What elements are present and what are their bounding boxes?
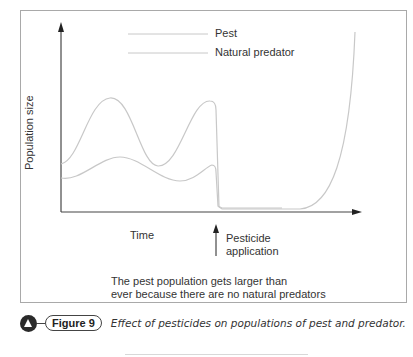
legend-label-pest: Pest — [215, 27, 237, 39]
y-axis-label: Population size — [23, 95, 35, 170]
annotation-line-1: Pesticide — [226, 232, 306, 245]
chart-plot — [0, 0, 413, 357]
note-line-2: ever because there are no natural predat… — [111, 288, 351, 301]
bottom-divider — [125, 354, 308, 355]
explanation-note: The pest population gets larger than eve… — [111, 275, 351, 301]
annotation-line-2: application — [226, 245, 306, 258]
figure-caption: Figure 9 Effect of pesticides on populat… — [20, 312, 406, 334]
pest-curve — [61, 32, 355, 209]
x-axis-label: Time — [130, 229, 154, 241]
triangle-warning-icon — [20, 315, 37, 332]
pesticide-arrow — [213, 224, 219, 256]
caption-text: Effect of pesticides on populations of p… — [111, 317, 406, 329]
pesticide-annotation: Pesticide application — [226, 232, 306, 258]
figure-number-badge: Figure 9 — [45, 315, 102, 331]
x-axis — [61, 209, 362, 215]
note-line-1: The pest population gets larger than — [111, 275, 351, 288]
caption-connector — [37, 323, 45, 324]
legend-label-predator: Natural predator — [215, 46, 295, 58]
y-axis — [58, 22, 64, 212]
predator-curve — [61, 157, 282, 208]
